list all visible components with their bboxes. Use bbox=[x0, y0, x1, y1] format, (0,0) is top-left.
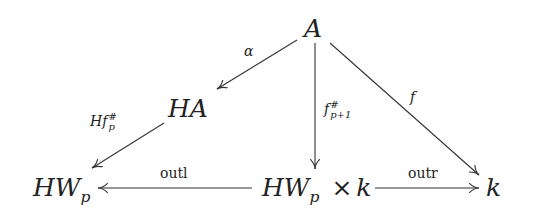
node-ha: HA bbox=[168, 96, 208, 121]
commutative-diagram: A HA HWp HWp ×k k α Hf#p f#p+1 f outl ou… bbox=[0, 0, 533, 216]
label-outr: outr bbox=[408, 166, 438, 180]
arrow-alpha bbox=[217, 40, 297, 89]
node-hwp-times-k: HWp ×k bbox=[262, 175, 372, 206]
label-f: f bbox=[410, 90, 415, 104]
label-hfp: Hf#p bbox=[90, 112, 117, 132]
node-k: k bbox=[486, 175, 501, 200]
label-alpha: α bbox=[244, 44, 253, 58]
arrow-f bbox=[330, 43, 479, 175]
label-outl: outl bbox=[160, 166, 188, 180]
node-hwp: HWp bbox=[33, 175, 90, 206]
label-fp1: f#p+1 bbox=[324, 100, 351, 120]
node-a: A bbox=[304, 16, 322, 41]
